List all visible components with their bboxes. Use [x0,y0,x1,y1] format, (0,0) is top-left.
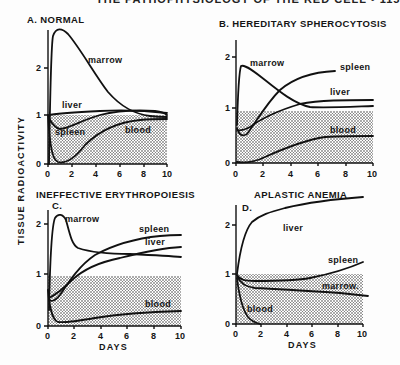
svg-text:0: 0 [225,158,230,168]
blood-label: blood [125,125,151,135]
svg-text:2: 2 [36,63,41,73]
liver-label: liver [330,87,350,97]
marrow-label: marrow. [322,281,359,291]
svg-text:2: 2 [71,331,76,341]
svg-text:2: 2 [36,219,41,229]
svg-text:0: 0 [233,329,238,339]
blood-label: blood [330,125,356,135]
x-ticks: 0 2 4 6 8 10 [233,169,377,179]
svg-text:6: 6 [315,169,320,179]
svg-text:2: 2 [225,220,230,230]
svg-text:1: 1 [36,110,41,120]
liver-label: liver [283,223,303,233]
panel-b: B. HEREDITARY SPHEROCYTOSIS 2 1 0 0 2 4 … [219,18,387,179]
svg-text:4: 4 [288,169,293,179]
y-axis-label: TISSUE RADIOACTIVITY [16,116,26,245]
svg-text:0: 0 [45,331,50,341]
x-ticks: 0 2 4 6 8 10 [45,331,185,341]
liver-label: liver [62,100,82,110]
x-ticks: 0 2 4 6 8 10 [233,329,367,339]
svg-text:2: 2 [260,169,265,179]
y-ticks: 2 1 0 [225,52,230,168]
svg-text:1: 1 [36,269,41,279]
marrow-label: marrow [88,55,123,65]
marrow-label: marrow [250,58,285,68]
panel-c: INEFFECTIVE ERYTHROPOIESIS C. 2 1 0 0 2 … [36,189,195,352]
spleen-label: spleen [55,127,85,137]
svg-text:4: 4 [284,329,289,339]
svg-text:2: 2 [225,52,230,62]
svg-text:10: 10 [367,169,377,179]
panel-title: INEFFECTIVE ERYTHROPOIESIS [36,189,195,200]
svg-text:1: 1 [225,103,230,113]
svg-text:6: 6 [124,331,129,341]
panel-letter: D. [242,202,252,213]
svg-text:0: 0 [36,321,41,331]
y-ticks: 2 1 0 [36,63,41,169]
svg-text:1: 1 [225,269,230,279]
svg-text:4: 4 [93,169,98,179]
svg-text:6: 6 [117,169,122,179]
panel-title: A. NORMAL [27,14,84,25]
svg-text:10: 10 [175,331,185,341]
spleen-label: spleen [340,62,370,72]
panel-letter: C. [52,200,62,211]
svg-text:2: 2 [258,329,263,339]
svg-text:8: 8 [141,169,146,179]
panel-title: APLASTIC ANEMIA [254,189,347,200]
x-ticks: 0 2 4 6 8 10 [45,169,172,179]
svg-text:0: 0 [233,169,238,179]
spleen-label: spleen [139,224,169,234]
y-ticks: 2 1 0 [36,219,41,331]
svg-text:0: 0 [36,159,41,169]
blood-label: blood [247,304,273,314]
panel-title: B. HEREDITARY SPHEROCYTOSIS [219,18,387,29]
svg-text:0: 0 [45,169,50,179]
svg-text:6: 6 [309,329,314,339]
svg-text:4: 4 [98,331,103,341]
svg-text:0: 0 [225,319,230,329]
y-ticks: 2 1 0 [225,220,230,329]
svg-text:10: 10 [162,169,172,179]
spleen-label: spleen [328,255,358,265]
liver-label: liver [145,237,165,247]
panel-a: A. NORMAL 2 1 0 0 2 4 6 8 10 marrow live… [27,14,172,179]
svg-text:10: 10 [357,329,367,339]
shaded-normal-range [48,115,167,164]
marrow-label: marrow [65,214,100,224]
x-axis-label: DAYS [288,340,317,350]
x-axis-label: DAYS [99,342,128,352]
panel-d: APLASTIC ANEMIA D. 2 1 0 0 2 4 6 8 10 li… [225,189,368,350]
svg-text:8: 8 [151,331,156,341]
blood-label: blood [145,299,171,309]
svg-text:8: 8 [335,329,340,339]
svg-text:2: 2 [69,169,74,179]
svg-text:8: 8 [343,169,348,179]
